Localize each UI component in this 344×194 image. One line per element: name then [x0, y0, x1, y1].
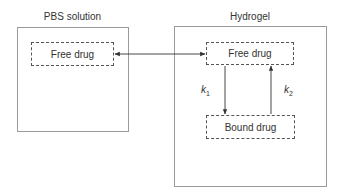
- k1-label: k1: [201, 84, 210, 97]
- k2-label: k2: [284, 84, 293, 97]
- arrows-layer: [0, 0, 344, 194]
